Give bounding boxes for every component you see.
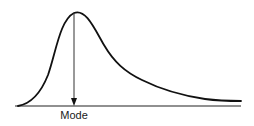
distribution-curve (18, 12, 241, 106)
skewed-distribution-figure: Mode (0, 0, 254, 126)
mode-arrow-head-icon (71, 98, 77, 106)
mode-label: Mode (54, 109, 94, 121)
